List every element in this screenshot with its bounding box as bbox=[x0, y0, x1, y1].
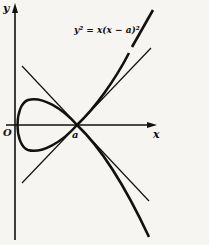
y-axis-label: y bbox=[2, 2, 11, 15]
x-axis-label: x bbox=[152, 128, 160, 141]
y-axis-arrow-icon bbox=[12, 3, 18, 13]
origin-label: O bbox=[3, 127, 12, 138]
node-point bbox=[75, 123, 79, 127]
node-label: a bbox=[72, 129, 78, 140]
curve-lower-branch bbox=[77, 125, 149, 237]
curve-upper-branch bbox=[77, 53, 129, 125]
equation-label: y² = x(x − a)² bbox=[73, 25, 140, 35]
curve-figure: y x O a y² = x(x − a)² bbox=[0, 0, 209, 245]
